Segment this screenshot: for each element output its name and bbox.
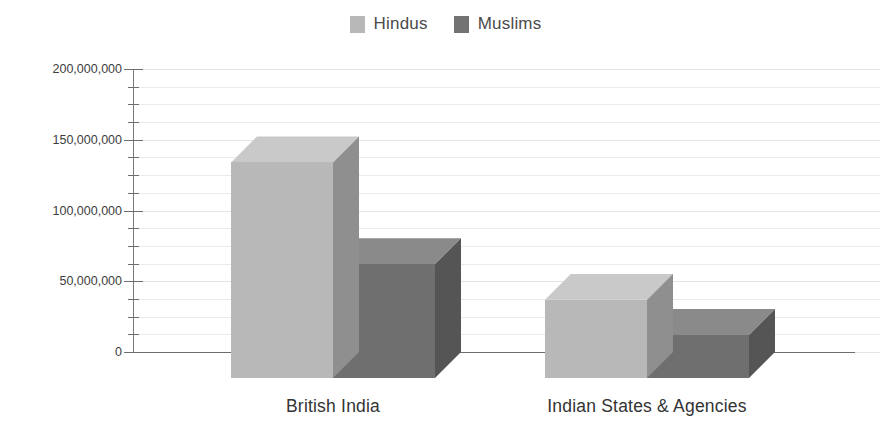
bar-side-face	[333, 136, 359, 378]
x-axis-label-indian-states: Indian States & Agencies	[497, 396, 797, 417]
gridline	[133, 122, 880, 123]
y-axis-tick-label: 0	[6, 345, 122, 359]
y-axis-minor-tick	[128, 87, 139, 88]
y-axis-tick-label: 50,000,000	[6, 274, 122, 288]
y-axis-major-tick	[124, 69, 143, 70]
gridline	[133, 87, 880, 88]
y-axis-tick-label: 150,000,000	[6, 133, 122, 147]
y-axis-minor-tick	[128, 104, 139, 105]
y-axis-minor-tick	[128, 157, 139, 158]
y-axis-minor-tick	[128, 246, 139, 247]
y-axis-minor-tick	[128, 334, 139, 335]
gridline	[133, 104, 880, 105]
y-axis-minor-tick	[128, 175, 139, 176]
x-axis-label-british-india: British India	[183, 396, 483, 417]
gridline	[133, 69, 880, 70]
bar-hindus-group-1[interactable]	[231, 136, 359, 378]
y-axis-major-tick	[124, 140, 143, 141]
y-axis-minor-tick	[128, 317, 139, 318]
y-axis-minor-tick	[128, 122, 139, 123]
y-axis-minor-tick	[128, 299, 139, 300]
bar-hindus-group-2[interactable]	[545, 274, 673, 378]
y-axis-minor-tick	[128, 193, 139, 194]
bar-front-face	[545, 300, 647, 378]
y-axis-tick-label: 100,000,000	[6, 204, 122, 218]
plot-area	[0, 0, 891, 444]
y-axis-labels: 200,000,000150,000,000100,000,00050,000,…	[0, 0, 122, 444]
y-axis-major-tick	[124, 211, 143, 212]
y-axis-minor-tick	[128, 228, 139, 229]
y-axis-tick-label: 200,000,000	[6, 62, 122, 76]
bar-front-face	[231, 162, 333, 378]
y-axis-minor-tick	[128, 264, 139, 265]
bar-chart: Hindus Muslims 200,000,000150,000,000100…	[0, 0, 891, 444]
y-axis-major-tick	[124, 281, 143, 282]
